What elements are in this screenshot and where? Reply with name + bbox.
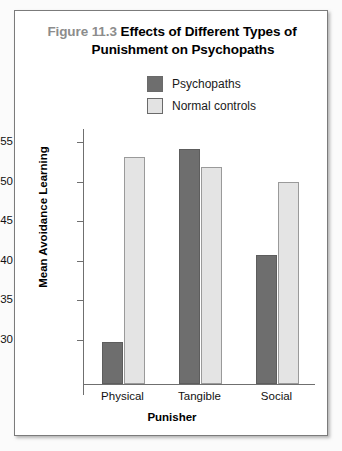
x-category-label-social: Social [242, 390, 312, 402]
bar-tangible-normal-controls [201, 167, 222, 384]
x-axis-title: Punisher [15, 411, 329, 423]
bar-social-psychopaths [256, 255, 277, 384]
y-tick-mark [77, 221, 84, 222]
plot-area: 0.300.350.400.450.500.55 PhysicalTangibl… [15, 11, 329, 437]
figure-frame: Figure 11.3 Effects of Different Types o… [14, 10, 328, 436]
bar-tangible-psychopaths [179, 149, 200, 384]
y-tick-mark [77, 340, 84, 341]
figure-root: Figure 11.3 Effects of Different Types o… [0, 0, 342, 451]
x-category-label-physical: Physical [88, 390, 158, 402]
x-axis-line [83, 384, 315, 385]
y-tick-mark [77, 142, 84, 143]
y-axis-title: Mean Avoidance Learning [37, 127, 49, 307]
y-tick-label: 0.55 [0, 135, 13, 147]
y-tick-label: 0.30 [0, 333, 13, 345]
y-tick-mark [77, 182, 84, 183]
y-tick-label: 0.45 [0, 214, 13, 226]
bar-physical-psychopaths [102, 342, 123, 384]
y-tick-label: 0.40 [0, 254, 13, 266]
y-axis-line [83, 129, 84, 395]
y-tick-mark [77, 300, 84, 301]
y-tick-mark [77, 261, 84, 262]
y-tick-label: 0.35 [0, 293, 13, 305]
x-category-label-tangible: Tangible [165, 390, 235, 402]
y-tick-label: 0.50 [0, 175, 13, 187]
bar-social-normal-controls [278, 182, 299, 384]
bar-physical-normal-controls [124, 157, 145, 384]
